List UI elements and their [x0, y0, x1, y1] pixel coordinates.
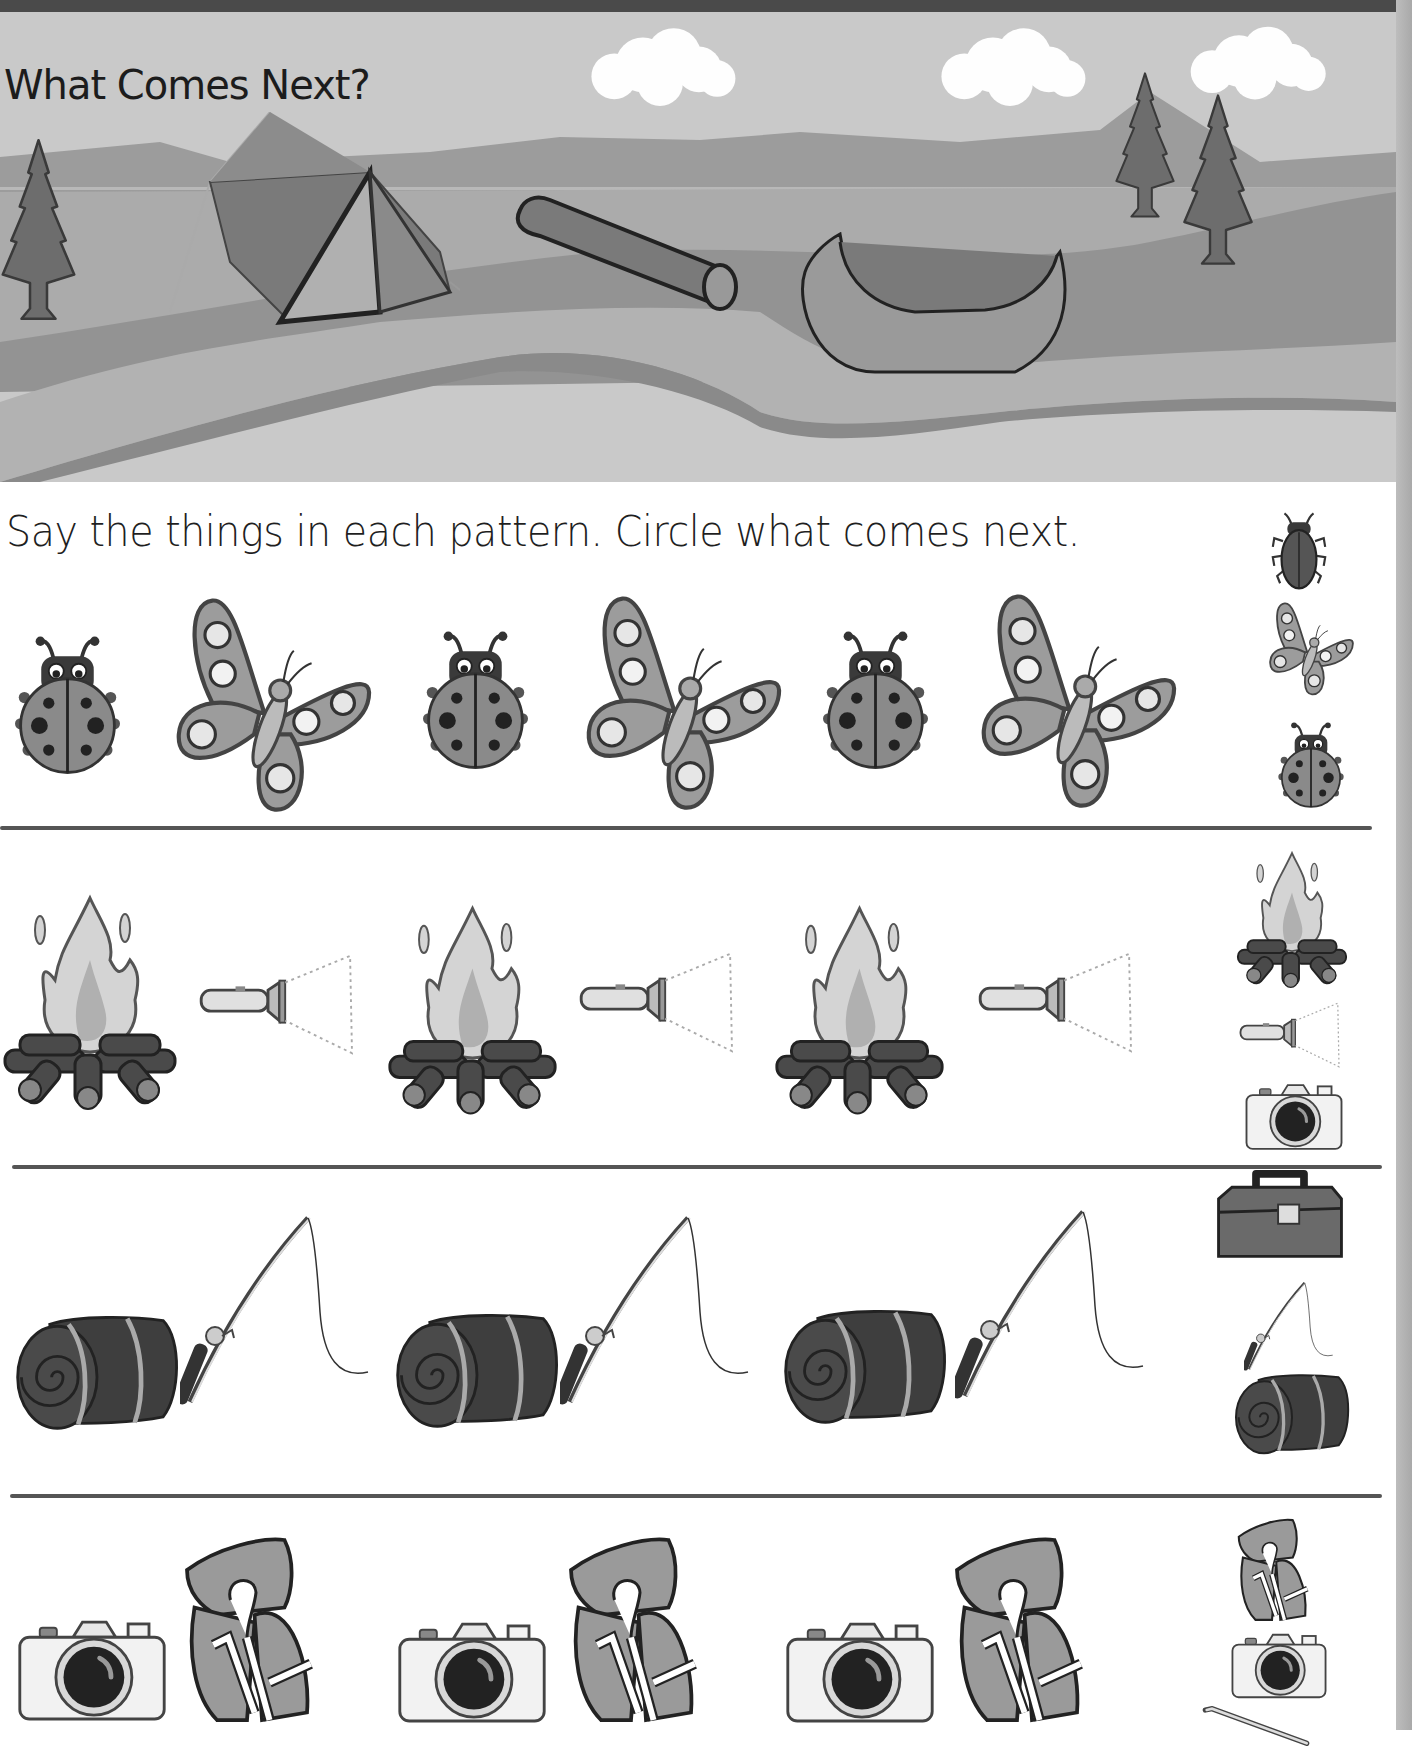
flashlight-icon — [975, 950, 1140, 1055]
choice-butterfly[interactable] — [1262, 598, 1362, 698]
row-divider — [10, 1494, 1382, 1498]
camera-icon — [396, 1620, 548, 1725]
tackle-box-icon — [1212, 1170, 1348, 1266]
camera-icon — [1244, 1082, 1344, 1152]
campfire-icon — [1234, 848, 1350, 988]
page-title: What Comes Next? — [4, 62, 370, 108]
choice-sleeping-bag[interactable] — [1232, 1370, 1352, 1458]
choice-paddle[interactable] — [1196, 1706, 1316, 1746]
butterfly-icon — [170, 588, 380, 818]
pattern-row-3 — [0, 1180, 1396, 1440]
choice-beetle[interactable] — [1268, 512, 1330, 592]
canoe-icon — [795, 232, 1075, 382]
choice-flashlight[interactable] — [1238, 1000, 1344, 1070]
log-icon — [510, 192, 740, 312]
choice-camera[interactable] — [1230, 1632, 1328, 1700]
choice-life-jacket[interactable] — [1230, 1516, 1314, 1624]
paddle-icon — [1196, 1706, 1316, 1746]
life-jacket-icon — [1230, 1516, 1314, 1624]
fishing-rod-icon — [1244, 1280, 1334, 1374]
beetle-icon — [1268, 512, 1330, 592]
butterfly-icon — [1262, 598, 1362, 698]
sleeping-bag-icon — [12, 1310, 182, 1435]
flashlight-icon — [196, 952, 361, 1057]
flashlight-icon — [576, 950, 741, 1055]
choice-fishing-rod[interactable] — [1244, 1280, 1334, 1374]
cloud-icon — [580, 26, 740, 106]
cloud-icon — [1180, 22, 1330, 102]
camera-icon — [784, 1620, 936, 1725]
pattern-row-1 — [0, 580, 1396, 840]
camera-icon — [16, 1618, 168, 1723]
pine-tree-icon — [1110, 72, 1180, 222]
pattern-row-4 — [0, 1520, 1396, 1730]
ladybug-icon — [1276, 718, 1346, 812]
campfire-icon — [0, 890, 180, 1110]
row-divider — [0, 826, 1372, 830]
sleeping-bag-icon — [392, 1308, 562, 1433]
page-top-edge — [0, 0, 1412, 12]
choice-ladybug[interactable] — [1276, 718, 1346, 812]
campfire-icon — [772, 900, 947, 1115]
page-binding-edge — [1396, 0, 1412, 1730]
fishing-rod-icon — [955, 1206, 1145, 1406]
choice-tackle-box[interactable] — [1212, 1170, 1348, 1266]
fishing-rod-icon — [560, 1212, 750, 1412]
pattern-row-2 — [0, 870, 1396, 1130]
butterfly-icon — [580, 586, 790, 816]
camera-icon — [1230, 1632, 1328, 1700]
life-jacket-icon — [556, 1530, 706, 1730]
cloud-icon — [920, 26, 1100, 106]
sleeping-bag-icon — [1232, 1370, 1352, 1458]
choice-campfire[interactable] — [1234, 848, 1350, 988]
life-jacket-icon — [172, 1530, 322, 1730]
butterfly-icon — [975, 584, 1185, 814]
sleeping-bag-icon — [780, 1304, 950, 1429]
pine-tree-icon — [1178, 92, 1258, 272]
row-divider — [12, 1165, 1382, 1169]
ladybug-icon — [818, 625, 933, 775]
campfire-icon — [385, 900, 560, 1115]
pine-tree-icon — [0, 112, 81, 352]
ladybug-icon — [10, 630, 125, 780]
instructions-text: Say the things in each pattern. Circle w… — [6, 506, 1080, 556]
camping-scene: What Comes Next? — [0, 12, 1396, 482]
flashlight-icon — [1238, 1000, 1344, 1070]
life-jacket-icon — [942, 1530, 1092, 1730]
ladybug-icon — [418, 625, 533, 775]
tent-icon — [150, 112, 460, 342]
choice-camera[interactable] — [1244, 1082, 1344, 1152]
fishing-rod-icon — [180, 1212, 370, 1412]
